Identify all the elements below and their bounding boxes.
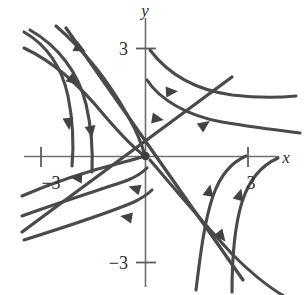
flow-arrow-ur-2 [151,113,165,126]
y-axis-label: y [139,1,149,20]
trajectory-lower-right-1 [150,160,284,295]
flow-arrows-group [63,41,247,245]
flow-arrow-ur-1 [166,86,179,98]
phase-portrait-canvas: x y 3 −3 −3 3 [0,0,305,295]
saddle-equilibrium-point [141,152,149,160]
y-tick-label-positive-three: 3 [119,39,128,59]
y-tick-label-negative-three: −3 [109,253,128,273]
phase-portrait-figure: x y 3 −3 −3 3 [0,0,305,295]
trajectory-upper-right-2 [147,80,300,133]
x-axis-label: x [281,148,290,167]
flow-arrow-sep-left [70,172,83,184]
separatrix-stable [22,77,232,232]
x-tick-label-negative-three: −3 [41,173,60,193]
flow-arrow-ll-2 [119,210,133,223]
trajectory-upper-left-4 [56,26,145,156]
x-tick-label-positive-three: 3 [247,173,256,193]
flow-arrow-ll-1 [127,181,142,195]
